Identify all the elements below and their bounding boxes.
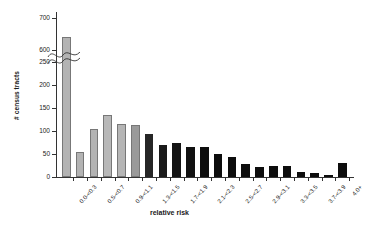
y-tick-label: 0 <box>26 173 50 180</box>
bar <box>283 166 292 178</box>
y-tick-label: 100 <box>26 127 50 134</box>
x-tick <box>266 177 267 181</box>
bar <box>241 164 250 177</box>
bar <box>103 115 112 177</box>
y-tick-label: 50 <box>26 150 50 157</box>
x-tick <box>280 177 281 181</box>
x-tick <box>335 177 336 181</box>
y-tick-label: 200 <box>26 81 50 88</box>
bar <box>117 124 126 177</box>
plot-area: 050100150200250600700 0.0-<0.30.5-<0.70.… <box>56 12 354 177</box>
bar <box>172 143 181 177</box>
x-tick-label: 2.5-<2.7 <box>244 184 263 205</box>
bar <box>324 175 333 177</box>
y-tick <box>52 108 56 109</box>
bar <box>297 172 306 177</box>
y-tick <box>52 50 56 51</box>
x-tick <box>170 177 171 181</box>
x-tick <box>211 177 212 181</box>
y-tick-label: 700 <box>26 14 50 21</box>
y-tick-label: 150 <box>26 104 50 111</box>
x-tick <box>349 177 350 181</box>
x-tick <box>156 177 157 181</box>
bar <box>76 152 85 177</box>
bar-chart: # census tracts relative risk 0501001502… <box>0 0 384 236</box>
x-tick <box>322 177 323 181</box>
bar <box>145 134 154 177</box>
y-tick <box>52 131 56 132</box>
bar <box>310 173 319 177</box>
y-axis-title: # census tracts <box>13 56 20 136</box>
y-tick-label: 600 <box>26 46 50 53</box>
x-tick-label: 0.0-<0.3 <box>79 184 98 205</box>
bar <box>90 129 99 177</box>
x-tick <box>197 177 198 181</box>
x-tick <box>294 177 295 181</box>
bar <box>338 163 347 177</box>
x-tick-label: 1.7-<1.9 <box>189 184 208 205</box>
x-tick <box>142 177 143 181</box>
y-tick-label: 250 <box>26 58 50 65</box>
bar <box>269 166 278 177</box>
x-tick <box>87 177 88 181</box>
x-tick <box>101 177 102 181</box>
x-tick-label: 4.0+ <box>351 184 363 197</box>
y-tick <box>52 62 56 63</box>
bar <box>131 125 140 177</box>
bar <box>228 157 237 177</box>
bar <box>159 145 168 177</box>
x-tick <box>253 177 254 181</box>
x-tick-label: 2.9-<3.1 <box>272 184 291 205</box>
y-tick <box>52 85 56 86</box>
y-tick <box>52 177 56 178</box>
x-tick <box>115 177 116 181</box>
x-tick <box>239 177 240 181</box>
x-tick-label: 0.5-<0.7 <box>106 184 125 205</box>
bar <box>186 147 195 177</box>
bar <box>214 154 223 177</box>
x-tick <box>184 177 185 181</box>
x-tick-label: 3.3-<3.5 <box>299 184 318 205</box>
x-tick-label: 3.7-<3.9 <box>327 184 346 205</box>
bar <box>62 37 71 177</box>
y-tick <box>52 18 56 19</box>
x-tick <box>308 177 309 181</box>
x-axis-title: relative risk <box>150 209 189 216</box>
x-tick-label: 2.1-<2.3 <box>217 184 236 205</box>
x-tick-label: 1.3-<1.5 <box>161 184 180 205</box>
y-axis-line <box>56 12 57 178</box>
x-tick <box>128 177 129 181</box>
bar <box>200 147 209 177</box>
x-tick <box>73 177 74 181</box>
bar <box>255 167 264 177</box>
x-tick <box>225 177 226 181</box>
y-tick <box>52 154 56 155</box>
x-tick-label: 0.9-<1.1 <box>134 184 153 205</box>
